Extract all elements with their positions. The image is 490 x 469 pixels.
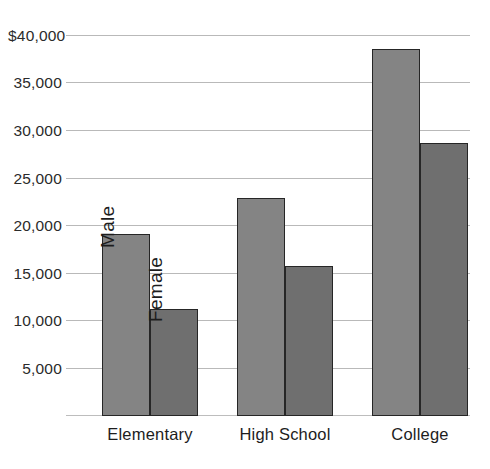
category-label-college: College <box>350 425 490 443</box>
tick-stub-5000 <box>66 368 88 369</box>
ytick-label-35000: 35,000 <box>8 75 62 91</box>
ytick-label-15000: 15,000 <box>8 266 62 282</box>
series-label-female: Female <box>146 257 165 322</box>
tick-stub-35000 <box>66 82 88 83</box>
bar-highschool-male[interactable] <box>237 198 285 416</box>
series-label-male: Male <box>98 206 117 248</box>
tick-stub-40000 <box>66 35 88 36</box>
bar-college-female[interactable] <box>420 143 468 416</box>
ytick-label-25000: 25,000 <box>8 171 62 187</box>
ytick-label-5000: 5,000 <box>8 361 62 377</box>
bar-college-male[interactable] <box>372 49 420 416</box>
bar-chart: $40,000 35,000 30,000 25,000 20,000 15,0… <box>0 0 490 469</box>
tick-stub-30000 <box>66 130 88 131</box>
category-label-high-school: High School <box>215 425 355 443</box>
plot-area: $40,000 35,000 30,000 25,000 20,000 15,0… <box>0 0 490 469</box>
bar-elementary-female[interactable] <box>150 309 198 416</box>
tick-stub-15000 <box>66 273 88 274</box>
ytick-label-10000: 10,000 <box>8 313 62 329</box>
bar-elementary-male[interactable] <box>102 234 150 416</box>
tick-stub-25000 <box>66 178 88 179</box>
bar-highschool-female[interactable] <box>285 266 333 416</box>
gridline-40000 <box>88 35 470 36</box>
ytick-label-40000: $40,000 <box>8 28 62 44</box>
tick-stub-20000 <box>66 225 88 226</box>
tick-stub-10000 <box>66 320 88 321</box>
ytick-label-20000: 20,000 <box>8 218 62 234</box>
category-label-elementary: Elementary <box>80 425 220 443</box>
ytick-label-30000: 30,000 <box>8 123 62 139</box>
